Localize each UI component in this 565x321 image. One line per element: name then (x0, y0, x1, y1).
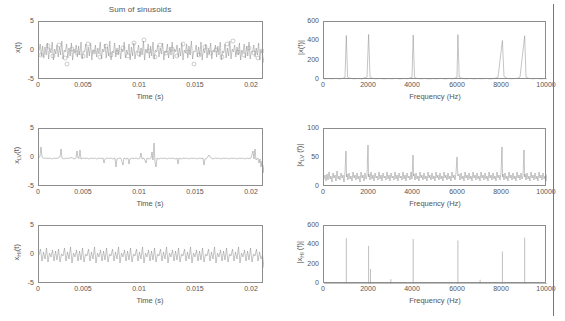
xtick-mid-right-1: 2000 (354, 188, 382, 195)
xtick-mid-right-2: 4000 (398, 188, 426, 195)
ytick-mid-right-1: 50 (296, 153, 319, 160)
ytick-mid-left-0: 5 (16, 124, 34, 131)
xtick-bottom-right-2: 4000 (398, 285, 426, 292)
xlabel-top-left: Time (s) (100, 92, 200, 101)
xtick-bottom-right-0: 0 (309, 285, 337, 292)
waveform-reconstructed (39, 226, 264, 284)
xtick-top-left-4: 0.02 (237, 81, 265, 88)
waveform-sum-of-sinusoids (39, 22, 264, 80)
ylabel-bottom-left-base: x (12, 257, 21, 261)
xtick-mid-right-3: 6000 (443, 188, 471, 195)
axes-top-left (38, 21, 263, 79)
xtick-top-left-3: 0.015 (181, 81, 209, 88)
spectrum-low-variance (324, 129, 547, 187)
xtick-bottom-right-3: 6000 (443, 285, 471, 292)
matlab-figure-canvas: Sum of sinusoids (0, 0, 565, 321)
xtick-bottom-right-5: 10000 (530, 285, 562, 292)
xtick-bottom-right-4: 8000 (487, 285, 515, 292)
ytick-bottom-left-1: 0 (16, 250, 34, 257)
ylabel-bottom-right-sub: HI (299, 252, 305, 258)
xlabel-mid-left: Time (s) (100, 199, 200, 208)
xlabel-mid-right: Frequency (Hz) (379, 199, 491, 208)
ytick-bottom-right-1: 400 (296, 240, 319, 247)
xtick-top-right-5: 10000 (530, 81, 562, 88)
ytick-top-right-2: 200 (296, 56, 319, 63)
ylabel-mid-left-base: x (12, 160, 21, 164)
ytick-top-right-1: 400 (296, 36, 319, 43)
ytick-bottom-right-2: 200 (296, 260, 319, 267)
xtick-mid-left-3: 0.015 (181, 188, 209, 195)
xtick-top-right-3: 6000 (443, 81, 471, 88)
axes-bottom-left (38, 225, 263, 283)
right-vertical-rule (553, 4, 554, 316)
axes-bottom-right (323, 225, 546, 283)
ytick-top-right-0: 600 (296, 17, 319, 24)
ytick-mid-right-0: 100 (296, 124, 319, 131)
subplot-mid-left: xLV(t) 5 0 -5 0 0.005 0.01 0.015 0.02 Ti… (0, 107, 283, 214)
ytick-bottom-left-0: 5 (16, 221, 34, 228)
subplot-bottom-right: |xHI (f)| 600 400 200 0 0 2000 4000 6000… (283, 214, 565, 321)
xtick-mid-right-5: 10000 (530, 188, 562, 195)
xlabel-bottom-right: Frequency (Hz) (379, 296, 491, 305)
xtick-top-right-4: 8000 (487, 81, 515, 88)
figure-title: Sum of sinusoids (70, 5, 210, 14)
xtick-top-left-0: 0 (24, 81, 52, 88)
ytick-mid-left-1: 0 (16, 153, 34, 160)
xtick-top-right-0: 0 (309, 81, 337, 88)
xtick-bottom-left-0: 0 (24, 285, 52, 292)
spectrum-sum-of-sinusoids (324, 22, 547, 80)
xtick-bottom-left-1: 0.005 (69, 285, 97, 292)
xtick-mid-left-4: 0.02 (237, 188, 265, 195)
xtick-mid-right-0: 0 (309, 188, 337, 195)
xtick-mid-left-2: 0.01 (125, 188, 153, 195)
ytick-top-left-0: 5 (16, 17, 34, 24)
xtick-mid-left-1: 0.005 (69, 188, 97, 195)
xtick-bottom-left-3: 0.015 (181, 285, 209, 292)
ytick-top-left-1: 0 (16, 46, 34, 53)
xlabel-top-right: Frequency (Hz) (379, 92, 491, 101)
subplot-bottom-left: xHI(t) 5 0 -5 0 0.005 0.01 0.015 0.02 Ti… (0, 214, 283, 321)
spectrum-reconstructed (324, 226, 547, 284)
axes-top-right (323, 21, 546, 79)
xtick-bottom-left-4: 0.02 (237, 285, 265, 292)
xtick-top-right-2: 4000 (398, 81, 426, 88)
xtick-top-left-1: 0.005 (69, 81, 97, 88)
subplot-mid-right: |xLV (f)| 100 50 0 0 2000 4000 6000 8000… (283, 107, 565, 214)
axes-mid-left (38, 128, 263, 186)
axes-mid-right (323, 128, 546, 186)
xtick-top-left-2: 0.01 (125, 81, 153, 88)
xtick-top-right-1: 2000 (354, 81, 382, 88)
subplot-top-right: |x(f)| 600 400 200 0 0 2000 4000 6000 80… (283, 0, 565, 107)
ytick-bottom-right-0: 600 (296, 221, 319, 228)
waveform-low-variance (39, 129, 264, 187)
ylabel-mid-right-base: |x (295, 161, 304, 167)
subplot-top-left: Sum of sinusoids (0, 0, 283, 107)
xtick-mid-left-0: 0 (24, 188, 52, 195)
xtick-mid-right-4: 8000 (487, 188, 515, 195)
xtick-bottom-right-1: 2000 (354, 285, 382, 292)
xtick-bottom-left-2: 0.01 (125, 285, 153, 292)
xlabel-bottom-left: Time (s) (100, 296, 200, 305)
